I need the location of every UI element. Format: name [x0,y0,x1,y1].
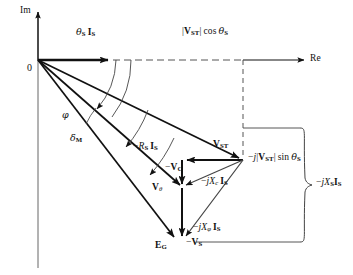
label-minus-jxc-is: −jXc IS [201,177,228,187]
label-minus-jxphi-is: −jXφ IS [193,223,221,233]
label-angle-delta-m: δM [70,133,82,144]
right-curly-brace [300,128,312,242]
angle-arc-theta-s [97,60,116,109]
phasor-diagram-figure: Im Re 0 θS IS |VST| cos θS VST −j|VST| s… [0,0,353,275]
label-vst: VST [213,140,228,150]
label-v-theta: Vθ [152,183,162,193]
label-angle-phi: φ [62,110,69,121]
angle-arc-delta-long [86,108,96,124]
label-vst-cos-theta-s: |VST| cos θS [182,26,228,37]
real-axis-label: Re [310,54,321,64]
phasor-diagram-canvas [0,0,353,275]
label-theta-s-is: θS IS [76,27,95,38]
label-minus-jxs-is: −jXSIS [316,178,342,188]
label-minus-rs-is: −RS IS [133,142,158,152]
label-minus-vc: −VC [165,163,182,173]
label-minus-j-vst-sin-theta-s: −j|VST| sin θS [248,152,301,163]
imaginary-axis-label: Im [20,6,31,16]
origin-label: 0 [27,63,32,73]
phasor-v-theta [38,60,180,185]
label-minus-vs: −VS [186,238,202,248]
angle-arc-theta-s-outer [112,60,131,117]
label-eg: EG [155,241,167,251]
